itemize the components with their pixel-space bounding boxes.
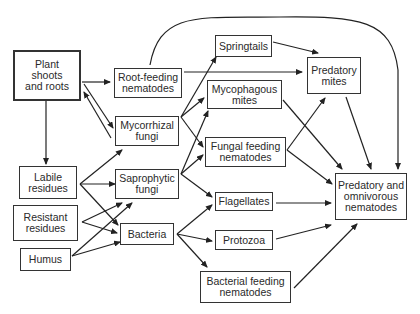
node-springtails: Springtails: [215, 35, 272, 57]
node-predatory-omnivorous-nematodes: Predatory and omnivorous nematodes: [335, 173, 407, 220]
node-root-feeding-nematodes: Root-feeding nematodes: [114, 68, 182, 98]
node-bacteria: Bacteria: [120, 223, 174, 245]
node-bacterial-feeding-nematodes: Bacterial feeding nematodes: [200, 271, 291, 303]
node-resistant-residues: Resistant residues: [13, 205, 78, 241]
node-plant-shoots-and-roots: Plant shoots and roots: [13, 50, 81, 101]
node-fungal-feeding-nematodes: Fungal feeding nematodes: [205, 137, 286, 167]
node-mycophagous-mites: Mycophagous mites: [207, 80, 282, 109]
node-flagellates: Flagellates: [215, 192, 273, 211]
node-protozoa: Protozoa: [215, 230, 273, 250]
node-labile-residues: Labile residues: [19, 166, 77, 199]
node-humus: Humus: [20, 248, 71, 271]
node-saprophytic-fungi: Saprophytic fungi: [115, 169, 179, 199]
node-mycorrhizal-fungi: Mycorrhizal fungi: [115, 116, 179, 146]
node-predatory-mites: Predatory mites: [307, 57, 361, 94]
